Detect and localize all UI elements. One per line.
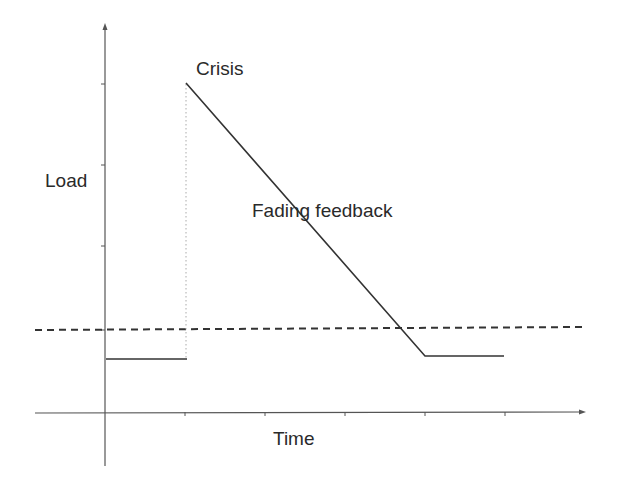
y-axis-label: Load [45, 170, 87, 192]
x-axis-label: Time [273, 428, 315, 450]
threshold-dashed-line [35, 327, 585, 330]
crisis-annotation: Crisis [196, 58, 244, 80]
x-axis-arrow-icon [579, 410, 586, 415]
fading-feedback-annotation: Fading feedback [252, 200, 393, 222]
y-axis-arrow-icon [103, 23, 108, 30]
load-time-diagram [0, 0, 617, 483]
y-axis [101, 23, 108, 466]
x-axis [35, 410, 586, 417]
